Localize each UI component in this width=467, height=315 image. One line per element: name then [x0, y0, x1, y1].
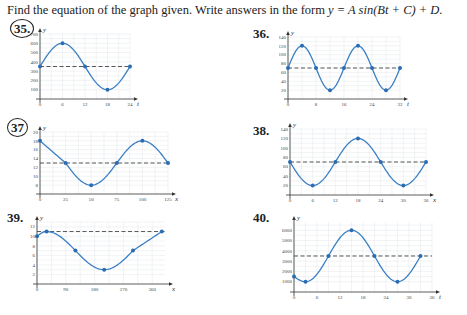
svg-text:x: x — [174, 195, 179, 203]
svg-text:0: 0 — [293, 295, 296, 300]
svg-text:0: 0 — [39, 197, 42, 202]
svg-text:18: 18 — [105, 102, 111, 107]
svg-text:4: 4 — [33, 263, 36, 268]
graph-36: yt0816243220406080100120140 — [278, 33, 398, 113]
graph-38: yx06121824303620406080100120140 — [278, 125, 423, 210]
svg-text:32: 32 — [398, 102, 404, 107]
svg-text:3000: 3000 — [282, 259, 293, 264]
svg-text:16: 16 — [342, 102, 348, 107]
svg-text:36: 36 — [430, 295, 436, 300]
svg-text:8: 8 — [315, 102, 318, 107]
svg-text:t: t — [439, 293, 442, 301]
svg-text:20: 20 — [281, 88, 287, 93]
svg-text:30: 30 — [401, 198, 407, 203]
svg-text:y: y — [39, 214, 44, 222]
svg-text:270: 270 — [120, 287, 128, 292]
svg-text:90: 90 — [63, 287, 69, 292]
svg-text:60: 60 — [281, 70, 287, 75]
svg-text:x: x — [432, 196, 437, 204]
svg-text:y: y — [42, 124, 47, 132]
svg-text:y: y — [296, 214, 301, 222]
svg-text:36: 36 — [424, 198, 430, 203]
svg-text:100: 100 — [139, 197, 147, 202]
svg-text:2000: 2000 — [282, 269, 293, 274]
svg-text:360: 360 — [148, 287, 156, 292]
svg-text:x: x — [171, 285, 176, 293]
svg-text:12: 12 — [33, 165, 39, 170]
svg-text:0: 0 — [287, 102, 290, 107]
svg-text:10: 10 — [33, 174, 39, 179]
graph-39: yx09018027036024681012 — [25, 218, 165, 300]
svg-text:6: 6 — [311, 198, 314, 203]
svg-text:20: 20 — [33, 130, 39, 135]
svg-text:6: 6 — [316, 295, 319, 300]
svg-text:16: 16 — [33, 147, 39, 152]
svg-text:80: 80 — [283, 155, 289, 160]
graph-37: yx02550751001258101214161820 — [28, 128, 168, 208]
svg-text:500: 500 — [31, 50, 39, 55]
svg-text:140: 140 — [281, 127, 289, 132]
problem-37-number: 37 — [7, 120, 28, 136]
svg-text:0: 0 — [39, 102, 42, 107]
svg-text:20: 20 — [283, 183, 289, 188]
svg-text:18: 18 — [356, 198, 362, 203]
problem-39-number: 39. — [7, 210, 23, 226]
svg-text:6: 6 — [61, 102, 64, 107]
svg-text:125: 125 — [164, 197, 172, 202]
problem-38-number: 38. — [253, 123, 269, 139]
svg-text:12: 12 — [338, 295, 344, 300]
svg-text:1000: 1000 — [282, 279, 293, 284]
svg-text:25: 25 — [63, 197, 69, 202]
svg-text:12: 12 — [333, 198, 339, 203]
svg-text:y: y — [42, 26, 47, 34]
svg-text:400: 400 — [31, 60, 39, 65]
svg-text:100: 100 — [281, 146, 289, 151]
svg-text:t: t — [407, 100, 410, 108]
instructions: Find the equation of the graph given. Wr… — [7, 3, 443, 18]
svg-text:8: 8 — [36, 183, 39, 188]
svg-text:5000: 5000 — [282, 238, 293, 243]
svg-text:24: 24 — [370, 102, 376, 107]
instructions-text: Find the equation of the graph given. Wr… — [7, 3, 328, 17]
svg-text:10: 10 — [30, 234, 36, 239]
problem-40-number: 40. — [253, 210, 269, 226]
svg-text:6: 6 — [33, 253, 36, 258]
svg-text:12: 12 — [83, 102, 89, 107]
graph-40: yt061218243036100020003000400050006000 — [278, 218, 428, 308]
svg-text:300: 300 — [31, 69, 39, 74]
svg-text:100: 100 — [31, 87, 39, 92]
svg-text:75: 75 — [114, 197, 120, 202]
svg-text:24: 24 — [378, 198, 384, 203]
svg-text:40: 40 — [283, 174, 289, 179]
svg-text:0: 0 — [36, 287, 39, 292]
svg-text:600: 600 — [31, 41, 39, 46]
svg-text:120: 120 — [279, 44, 287, 49]
problem-36-number: 36. — [253, 26, 269, 42]
svg-text:50: 50 — [89, 197, 95, 202]
svg-text:24: 24 — [384, 295, 390, 300]
svg-text:18: 18 — [361, 295, 367, 300]
svg-text:4000: 4000 — [282, 249, 293, 254]
graph-35: yt06121824100200300400500600700 — [28, 30, 133, 112]
svg-text:40: 40 — [281, 79, 287, 84]
svg-text:t: t — [137, 100, 140, 108]
svg-text:120: 120 — [281, 136, 289, 141]
svg-text:200: 200 — [31, 78, 39, 83]
svg-text:12: 12 — [30, 224, 36, 229]
svg-text:180: 180 — [91, 287, 99, 292]
svg-text:6000: 6000 — [282, 228, 293, 233]
svg-text:2: 2 — [33, 272, 36, 277]
svg-text:8: 8 — [33, 244, 36, 249]
svg-text:14: 14 — [33, 156, 39, 161]
svg-text:24: 24 — [128, 102, 134, 107]
svg-text:80: 80 — [281, 61, 287, 66]
svg-text:30: 30 — [407, 295, 413, 300]
svg-text:60: 60 — [283, 164, 289, 169]
svg-text:100: 100 — [279, 52, 287, 57]
svg-text:140: 140 — [279, 35, 287, 40]
svg-text:y: y — [290, 29, 295, 37]
svg-text:18: 18 — [33, 139, 39, 144]
formula: y = A sin(Bt + C) + D. — [328, 3, 442, 17]
svg-text:0: 0 — [289, 198, 292, 203]
svg-text:y: y — [292, 121, 297, 129]
